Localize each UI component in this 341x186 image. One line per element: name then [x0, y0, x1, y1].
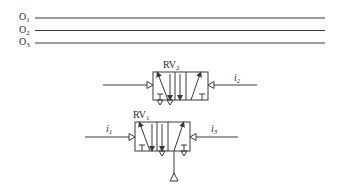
valve-rv2: [103, 72, 257, 105]
pneumatic-diagram: [0, 0, 341, 186]
valve-rv1: [85, 122, 238, 181]
